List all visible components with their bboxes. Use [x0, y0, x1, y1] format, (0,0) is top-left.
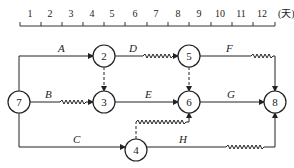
tick-label: 6 [133, 8, 138, 19]
tick-label: 8 [176, 8, 181, 19]
activity-label-c: C [73, 133, 81, 145]
tick-label: 7 [154, 8, 159, 19]
tick-label: 10 [215, 8, 225, 19]
network-diagram: 1 2 3 4 5 6 7 8 9 10 11 12 (天) [0, 0, 294, 168]
tick-label: 9 [197, 8, 202, 19]
activity-label-h: H [178, 133, 188, 145]
activity-label-b: B [45, 88, 52, 100]
node-label-7: 7 [16, 96, 22, 108]
tick-label: 5 [110, 8, 115, 19]
activity-label-f: F [225, 42, 233, 54]
tick-label: 2 [48, 8, 53, 19]
node-label-3: 3 [101, 96, 107, 108]
tick-label: 11 [236, 8, 246, 19]
activity-f-wavy [251, 54, 275, 91]
tick-label: 4 [90, 8, 95, 19]
activity-label-g: G [227, 88, 235, 100]
timeline: 1 2 3 4 5 6 7 8 9 10 11 12 (天) [20, 8, 294, 26]
activity-b-wavy [60, 100, 93, 104]
activity-label-e: E [144, 88, 152, 100]
activity-d-wavy [143, 54, 178, 58]
timeline-unit: (天) [278, 8, 294, 20]
tick-label: 12 [257, 8, 267, 19]
tick-label: 3 [69, 8, 74, 19]
node-label-2: 2 [101, 50, 107, 62]
activity-label-d: D [128, 42, 137, 54]
tick-label: 1 [28, 8, 33, 19]
node-label-4: 4 [133, 144, 139, 156]
node-label-5: 5 [186, 50, 192, 62]
dummy-4-6-wavy [136, 113, 189, 124]
activity-label-a: A [57, 42, 65, 54]
activity-h-wavy [226, 113, 275, 149]
activity-a-arrow [19, 56, 93, 91]
node-label-8: 8 [272, 96, 278, 108]
node-label-6: 6 [186, 96, 192, 108]
activity-c-arrow [19, 113, 125, 147]
